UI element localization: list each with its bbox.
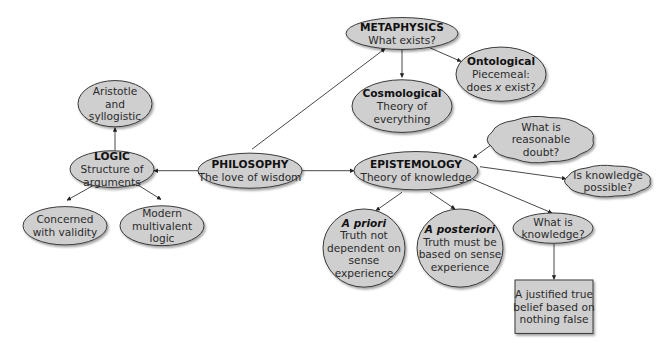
node-label-line: sense	[349, 254, 380, 266]
node-validity: Concernedwith validity	[23, 207, 107, 245]
node-label-line: Is knowledge	[573, 169, 642, 181]
node-label-line: with validity	[33, 226, 98, 238]
node-label-line: and	[105, 98, 125, 110]
edge-logic-to-multivalent	[138, 185, 161, 199]
node-label-line: reasonable	[512, 133, 571, 145]
node-knowledge-possible: Is knowledgepossible?	[565, 165, 651, 197]
node-label-line: Truth must be	[422, 236, 497, 248]
node-logic: LOGICStructure ofarguments	[70, 150, 154, 187]
node-label-line: nothing false	[519, 313, 588, 325]
node-label-line: Theory of	[376, 100, 428, 112]
node-ontological: OntologicalPiecemeal:does x exist?	[456, 47, 546, 101]
node-label-line: arguments	[83, 176, 140, 188]
concept-map: PHILOSOPHYThe love of wisdomLOGICStructu…	[0, 0, 670, 343]
node-label-line: based on sense	[419, 248, 502, 260]
node-label-line: experience	[335, 267, 394, 279]
node-reasonable-doubt: What isreasonabledoubt?	[487, 116, 593, 163]
node-label-line: everything	[373, 113, 430, 125]
node-aristotle: Aristotleandsyllogistic	[78, 81, 152, 127]
node-label-line: doubt?	[523, 146, 559, 158]
node-cosmological: CosmologicalTheory ofeverything	[352, 80, 452, 133]
node-label-line: Aristotle	[93, 85, 137, 97]
node-philosophy: PHILOSOPHYThe love of wisdom	[198, 153, 302, 188]
node-label-line: dependent on	[327, 242, 401, 254]
node-label-line: Truth not	[339, 229, 388, 241]
node-label-line: belief based on	[513, 301, 594, 313]
node-label-line: METAPHYSICS	[360, 21, 444, 33]
node-label-line: EPISTEMOLOGY	[370, 158, 462, 170]
node-label-line: The love of wisdom	[198, 171, 302, 183]
edge-epistemology-to-a-priori	[376, 192, 402, 210]
edge-epistemology-to-what-is-knowledge	[473, 179, 552, 213]
node-label-line: possible?	[584, 181, 633, 193]
node-label-line: Cosmological	[363, 87, 442, 99]
node-label-line: A justified true	[515, 288, 593, 300]
node-label-line: Piecemeal:	[472, 68, 530, 80]
edge-metaphysics-to-ontological	[430, 48, 461, 62]
node-label-line: knowledge?	[521, 228, 584, 240]
node-a-priori: A prioriTruth notdependent onsenseexperi…	[323, 209, 405, 287]
node-label-line: Ontological	[467, 55, 535, 67]
node-label-line: LOGIC	[94, 150, 130, 162]
node-a-posteriori: A posterioriTruth must bebased on sensee…	[417, 209, 503, 287]
node-what-is-knowledge: What isknowledge?	[513, 213, 593, 243]
nodes-layer: PHILOSOPHYThe love of wisdomLOGICStructu…	[23, 18, 650, 334]
node-label-line: experience	[431, 261, 490, 273]
node-epistemology: EPISTEMOLOGYTheory of knowledge	[354, 152, 478, 190]
node-label-line: does x exist?	[466, 81, 535, 93]
node-label-line: multivalent	[132, 220, 192, 232]
edge-epistemology-to-a-posteriori	[430, 192, 455, 209]
node-label-line: Modern	[142, 207, 182, 219]
node-label-line: A posteriori	[424, 223, 496, 235]
node-jtb: A justified truebelief based onnothing f…	[513, 280, 594, 333]
node-label-line: syllogistic	[89, 110, 141, 122]
node-label-line: A priori	[341, 217, 387, 229]
node-label-line: What is	[533, 216, 573, 228]
node-label-line: PHILOSOPHY	[212, 158, 289, 170]
edge-epistemology-to-knowledge-possible	[480, 167, 566, 179]
node-label-line: logic	[150, 232, 175, 244]
node-multivalent: Modernmultivalentlogic	[120, 206, 204, 246]
node-label-line: What is	[521, 121, 561, 133]
node-label-line: Concerned	[36, 213, 93, 225]
node-metaphysics: METAPHYSICSWhat exists?	[346, 18, 458, 50]
node-label-line: Theory of knowledge	[359, 171, 471, 183]
node-label-line: Structure of	[81, 163, 144, 175]
node-label-line: What exists?	[368, 34, 436, 46]
